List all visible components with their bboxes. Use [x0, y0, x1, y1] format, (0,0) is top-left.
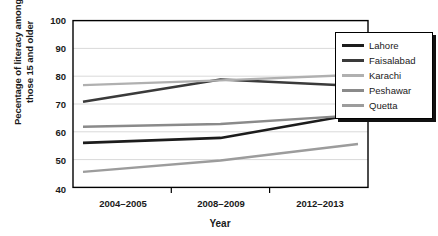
legend-swatch-quetta: [342, 104, 364, 107]
legend-swatch-karachi: [342, 74, 364, 77]
x-axis-ticks: [171, 187, 269, 193]
legend-label-faisalabad: Faisalabad: [369, 55, 415, 66]
legend-label-quetta: Quetta: [369, 100, 398, 111]
x-tick-label-2: 2012–2013: [275, 198, 365, 209]
legend-item-peshawar[interactable]: Peshawar: [340, 83, 428, 98]
legend-label-lahore: Lahore: [369, 40, 399, 51]
data-series-layer: [83, 75, 358, 172]
literacy-line-chart: Pecentage of literacy among those 15 and…: [0, 0, 438, 236]
legend-item-quetta[interactable]: Quetta: [340, 98, 428, 113]
x-tick-label-1: 2008–2009: [176, 198, 266, 209]
legend-swatch-peshawar: [342, 89, 364, 92]
legend-swatch-faisalabad: [342, 59, 364, 62]
legend: Lahore Faisalabad Karachi Peshawar Quett…: [335, 32, 433, 119]
legend-label-karachi: Karachi: [369, 70, 401, 81]
series-line-quetta: [83, 144, 358, 172]
legend-item-karachi[interactable]: Karachi: [340, 68, 428, 83]
legend-swatch-lahore: [342, 44, 364, 47]
x-tick-label-0: 2004–2005: [78, 198, 168, 209]
legend-item-lahore[interactable]: Lahore: [340, 38, 428, 53]
x-axis-title: Year: [60, 218, 380, 229]
legend-item-faisalabad[interactable]: Faisalabad: [340, 53, 428, 68]
legend-label-peshawar: Peshawar: [369, 85, 411, 96]
